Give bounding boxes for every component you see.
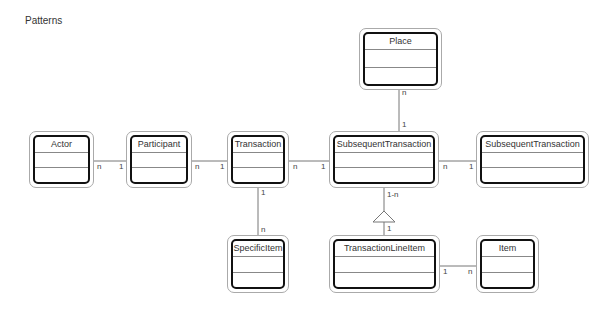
multiplicity-label: n xyxy=(468,267,472,276)
class-transaction[interactable]: Transaction xyxy=(227,131,289,188)
class-name: Actor xyxy=(35,137,88,153)
multiplicity-label: n xyxy=(402,88,406,97)
class-specific-item[interactable]: SpecificItem xyxy=(227,235,289,293)
multiplicity-label: 1 xyxy=(321,162,325,171)
multiplicity-label: 1 xyxy=(443,267,447,276)
multiplicity-label: n xyxy=(195,162,199,171)
class-transaction-line-item[interactable]: TransactionLineItem xyxy=(329,235,440,293)
multiplicity-label: n xyxy=(261,225,265,234)
multiplicity-label: 1 xyxy=(469,162,473,171)
class-place[interactable]: Place xyxy=(359,28,442,90)
multiplicity-label: 1 xyxy=(220,162,224,171)
multiplicity-label: 1-n xyxy=(387,190,399,199)
class-participant[interactable]: Participant xyxy=(126,131,192,188)
class-name: Place xyxy=(365,34,436,50)
class-name: Transaction xyxy=(233,137,283,153)
multiplicity-label: n xyxy=(293,162,297,171)
class-actor[interactable]: Actor xyxy=(29,131,94,188)
multiplicity-label: n xyxy=(443,162,447,171)
class-name: SubsequentTransaction xyxy=(482,137,583,153)
multiplicity-label: 1 xyxy=(387,224,391,233)
class-item[interactable]: Item xyxy=(476,235,539,293)
multiplicity-label: n xyxy=(97,162,101,171)
class-subsequent-transaction[interactable]: SubsequentTransaction xyxy=(329,131,439,188)
class-name: Participant xyxy=(132,137,186,153)
multiplicity-label: 1 xyxy=(261,188,265,197)
class-name: SpecificItem xyxy=(233,241,283,257)
multiplicity-label: 1 xyxy=(119,162,123,171)
class-name: Item xyxy=(482,241,533,257)
class-subsequent-transaction-right[interactable]: SubsequentTransaction xyxy=(476,131,589,188)
class-name: SubsequentTransaction xyxy=(335,137,433,153)
class-name: TransactionLineItem xyxy=(335,241,434,257)
generalization-triangle-icon xyxy=(373,211,395,222)
multiplicity-label: 1 xyxy=(402,120,406,129)
